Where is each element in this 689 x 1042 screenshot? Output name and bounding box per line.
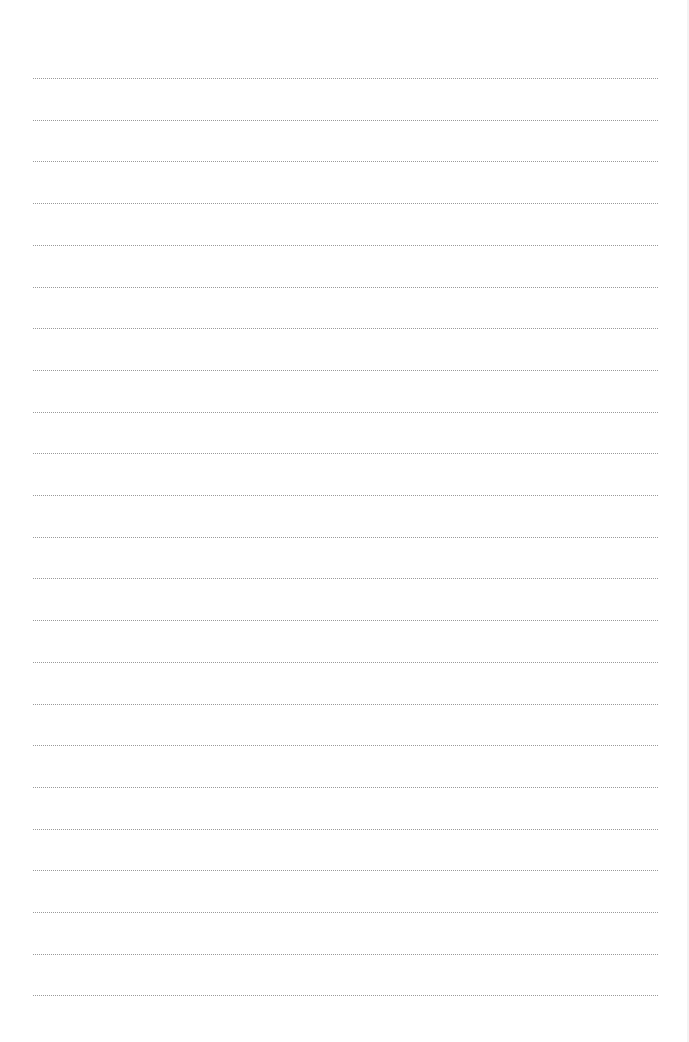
ruled-line [33, 328, 658, 329]
ruled-line [33, 287, 658, 288]
ruled-line [33, 453, 658, 454]
ruled-line [33, 578, 658, 579]
ruled-line [33, 203, 658, 204]
ruled-line [33, 78, 658, 79]
ruled-line [33, 620, 658, 621]
ruled-line [33, 412, 658, 413]
ruled-line [33, 870, 658, 871]
ruled-line [33, 537, 658, 538]
ruled-line [33, 912, 658, 913]
ruled-line [33, 745, 658, 746]
ruled-line [33, 245, 658, 246]
ruled-line [33, 829, 658, 830]
ruled-line [33, 161, 658, 162]
ruled-line [33, 120, 658, 121]
ruled-line [33, 370, 658, 371]
ruled-line [33, 704, 658, 705]
ruled-line [33, 495, 658, 496]
ruled-line [33, 995, 658, 996]
ruled-line [33, 954, 658, 955]
ruled-line [33, 662, 658, 663]
lined-paper-page [0, 0, 689, 1042]
ruled-line [33, 787, 658, 788]
